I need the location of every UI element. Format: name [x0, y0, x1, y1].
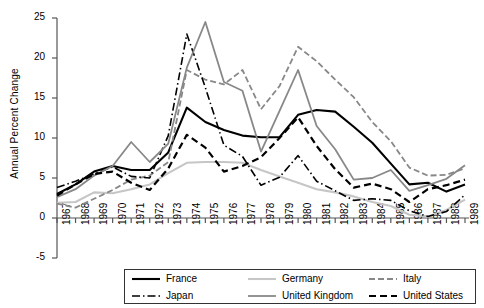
data-series-group	[57, 22, 465, 216]
legend: FranceGermanyItaly JapanUnited KingdomUn…	[124, 269, 476, 304]
legend-entry-united-states: United States	[368, 287, 463, 304]
series-line-japan	[57, 34, 465, 216]
legend-label: United States	[403, 290, 463, 301]
legend-swatch-japan	[131, 291, 161, 301]
legend-entry-japan: Japan	[131, 287, 193, 304]
legend-label: United Kingdom	[282, 290, 353, 301]
legend-row-2: JapanUnited KingdomUnited States	[125, 287, 475, 304]
legend-label: Japan	[166, 290, 193, 301]
legend-label: France	[166, 273, 197, 284]
plot-area	[0, 0, 484, 308]
legend-swatch-france	[131, 274, 161, 284]
legend-entry-italy: Italy	[368, 270, 421, 287]
legend-swatch-united-kingdom	[247, 291, 277, 301]
legend-entry-united-kingdom: United Kingdom	[247, 287, 353, 304]
legend-entry-germany: Germany	[247, 270, 323, 287]
legend-entry-france: France	[131, 270, 197, 287]
legend-swatch-united-states	[368, 291, 398, 301]
legend-swatch-italy	[368, 274, 398, 284]
legend-label: Germany	[282, 273, 323, 284]
legend-row-1: FranceGermanyItaly	[125, 270, 475, 287]
legend-swatch-germany	[247, 274, 277, 284]
line-chart: Annual Percent Change 2520151050-5 19671…	[0, 0, 484, 308]
legend-label: Italy	[403, 273, 421, 284]
